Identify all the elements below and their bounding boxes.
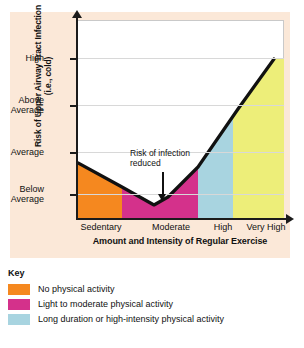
tick-below-average [70,194,78,196]
x-tick-label-high: High [204,222,242,233]
legend-label-no-physical-activity: No physical activity [38,284,115,295]
x-axis-title: Amount and Intensity of Regular Exercise [66,236,294,246]
legend-swatch-orange [8,284,30,295]
band-moderate [122,21,198,219]
y-axis-title: Risk of Upper Airway Tract Infection (i.… [33,1,49,151]
annotation-arrow-down-icon [158,194,166,201]
legend-title: Key [8,268,296,278]
y-tick-label-below-average: Below Average [0,184,44,204]
legend-label-long-duration-high-intensity: Long duration or high-intensity physical… [38,314,224,325]
annotation-risk-reduced: Risk of infection reduced [130,148,222,168]
y-axis-spine [76,16,78,220]
legend-item-long-duration-high-intensity: Long duration or high-intensity physical… [8,314,296,325]
y-tick-label-high: High [0,53,44,63]
annotation-line-2: reduced [130,158,161,168]
gridline-above-average [78,105,284,106]
x-tick-label-moderate: Moderate [142,222,200,233]
annotation-line-1: Risk of infection [130,148,190,158]
x-tick-label-sedentary: Sedentary [72,222,130,233]
y-tick-label-below-average-line1: Below [19,184,44,194]
legend-swatch-magenta [8,299,30,310]
band-sedentary [78,21,122,219]
chart-svg [78,21,284,219]
annotation-arrow-shaft [162,172,164,196]
band-high [198,21,233,219]
gridline-high [78,58,284,59]
y-tick-label-average-text: Average [11,147,44,157]
x-tick-label-very-high: Very High [240,222,292,233]
y-axis-arrow-icon [72,10,82,18]
gridline-below-average [78,194,284,195]
legend-item-light-to-moderate: Light to moderate physical activity [8,299,296,310]
y-tick-label-high-text: High [25,53,44,63]
y-tick-label-average: Average [0,147,44,157]
legend-swatch-blue [8,314,30,325]
legend-item-no-physical-activity: No physical activity [8,284,296,295]
tick-above-average [70,105,78,107]
y-tick-label-above-average: Above Average [0,95,44,115]
plot-area [78,20,284,218]
figure-panel: Risk of Upper Airway Tract Infection (i.… [10,12,290,258]
y-tick-label-above-average-line1: Above [18,95,44,105]
y-tick-label-below-average-line2: Average [11,194,44,204]
y-tick-label-above-average-line2: Average [11,105,44,115]
x-axis-spine [76,218,288,220]
tick-average [70,152,78,154]
legend: Key No physical activity Light to modera… [8,268,296,329]
tick-high [70,58,78,60]
band-very-high [233,21,284,219]
legend-label-light-to-moderate: Light to moderate physical activity [38,299,173,310]
activity-bands [78,21,284,219]
